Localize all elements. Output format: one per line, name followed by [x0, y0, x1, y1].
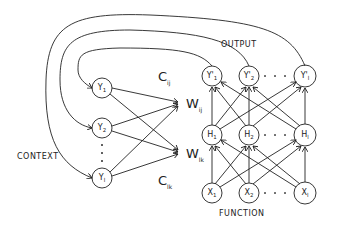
- context-node-2-label: Y2: [98, 123, 106, 134]
- hidden-node-1-label: H1: [207, 130, 217, 141]
- input-node-1-label: X1: [208, 188, 217, 199]
- context-label: CONTEXT: [17, 153, 59, 161]
- context-node-l-label: Yl: [99, 173, 105, 184]
- output-node-l-label: Y'l: [301, 71, 310, 82]
- hidden-node-2-label: H2: [244, 130, 254, 141]
- function-label: FUNCTION: [219, 210, 265, 218]
- network-diagram: OUTPUT FUNCTION CONTEXT Cij Clk Wij Wlk …: [0, 0, 337, 229]
- output-node-1-label: Y'1: [207, 71, 218, 82]
- c-lk-label: Clk: [158, 174, 172, 190]
- feedback-loop-l: [46, 15, 305, 178]
- c-ij-label: Cij: [158, 70, 170, 86]
- output-label: OUTPUT: [221, 41, 257, 49]
- input-node-2-label: X2: [245, 188, 254, 199]
- w-ij-label: Wij: [186, 97, 202, 113]
- diagram-lines: [0, 0, 337, 229]
- output-node-2-label: Y'2: [244, 71, 255, 82]
- input-node-l-label: Xl: [301, 188, 308, 199]
- context-node-1-label: Y1: [98, 83, 106, 94]
- hidden-node-l-label: Hl: [301, 130, 309, 141]
- w-lk-label: Wlk: [186, 147, 204, 163]
